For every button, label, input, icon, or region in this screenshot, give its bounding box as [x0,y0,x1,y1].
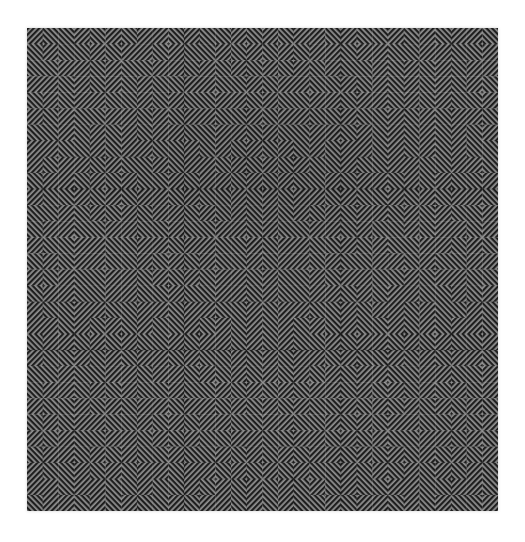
op-art-pattern-canvas [27,28,498,511]
page-background [0,0,525,542]
op-art-artwork [27,28,498,511]
